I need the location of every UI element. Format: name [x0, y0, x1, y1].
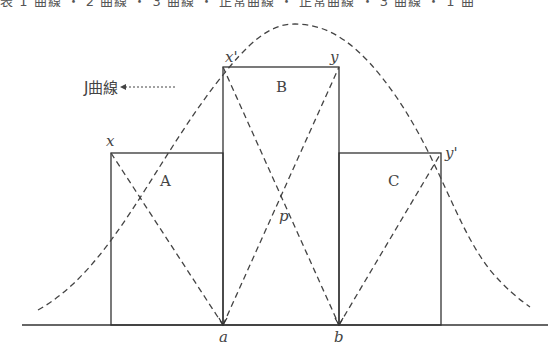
label-block-c: C [388, 172, 399, 190]
label-x-prime: x' [225, 48, 238, 66]
diagram-canvas: 表 1 曲線 ・ 2 曲線 ・ 3 曲線 ・ 正常曲線 ・ 正常曲線 ・ 3 曲… [0, 0, 558, 353]
label-b: b [334, 328, 344, 346]
label-y-prime: y' [444, 144, 458, 162]
curve-label-arrow-icon [120, 84, 126, 90]
curve-label: J曲線 [83, 79, 118, 97]
label-y: y [329, 48, 339, 66]
label-block-a: A [159, 172, 171, 190]
label-a: a [219, 328, 228, 346]
label-x: x [106, 132, 115, 150]
label-block-b: B [276, 78, 287, 96]
label-p: p [279, 207, 289, 225]
j-curve-diagram: J曲線 x A x' y B C y' p a b [0, 0, 558, 353]
